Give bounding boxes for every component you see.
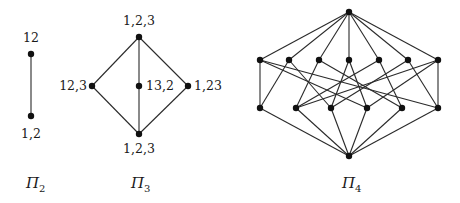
lattice-node [286, 57, 292, 63]
lattice-edge [349, 12, 438, 60]
lattice-node [346, 57, 352, 63]
lattice-edge [319, 60, 402, 108]
lattice-edge [349, 12, 379, 60]
lattice-pi-3: 1,2,312,313,21,231,2,3Π3 [59, 13, 222, 194]
node-label: 12,3 [59, 78, 87, 93]
lattice-caption: Π4 [341, 174, 361, 194]
lattice-pi-4: Π4 [257, 9, 441, 194]
node-label: 1,2,3 [123, 13, 155, 28]
lattice-edge [349, 108, 367, 156]
lattice-node [435, 57, 441, 63]
lattice-node [257, 57, 263, 63]
lattice-node [136, 34, 142, 40]
lattice-edge [92, 37, 139, 86]
lattice-edge [349, 12, 408, 60]
lattice-node [257, 105, 263, 111]
lattice-node [346, 153, 352, 159]
lattice-pi-2: 121,2Π2 [21, 30, 45, 194]
lattice-edge [92, 86, 139, 134]
lattice-node [364, 105, 370, 111]
lattice-node [28, 113, 34, 119]
node-label: 1,2,3 [123, 141, 155, 156]
lattice-node [136, 131, 142, 137]
node-label: 13,2 [146, 78, 174, 93]
lattice-edge [367, 60, 438, 108]
lattice-edge [260, 60, 289, 108]
lattice-edge [331, 108, 349, 156]
lattice-node [89, 83, 95, 89]
lattice-node [28, 51, 34, 57]
node-label: 12 [23, 30, 39, 45]
lattice-edge [260, 60, 438, 108]
lattice-edge [289, 12, 349, 60]
node-label: 1,2 [21, 126, 41, 141]
lattice-node [346, 9, 352, 15]
lattice-caption: Π3 [130, 174, 150, 194]
node-label: 1,23 [194, 78, 222, 93]
lattice-node [376, 57, 382, 63]
lattice-edge [289, 60, 331, 108]
lattice-node [316, 57, 322, 63]
lattice-edge [139, 86, 188, 134]
lattice-node [136, 83, 142, 89]
lattice-node [399, 105, 405, 111]
lattice-node [185, 83, 191, 89]
partition-lattices-figure: 121,2Π2 1,2,312,313,21,231,2,3Π3 Π4 [0, 0, 460, 203]
lattice-node [435, 105, 441, 111]
lattice-edge [260, 12, 349, 60]
lattice-edge [331, 60, 349, 108]
lattice-node [328, 105, 334, 111]
lattice-node [293, 105, 299, 111]
lattice-edge [319, 12, 349, 60]
lattice-node [405, 57, 411, 63]
lattice-edge [331, 60, 408, 108]
lattice-caption: Π2 [25, 174, 45, 194]
